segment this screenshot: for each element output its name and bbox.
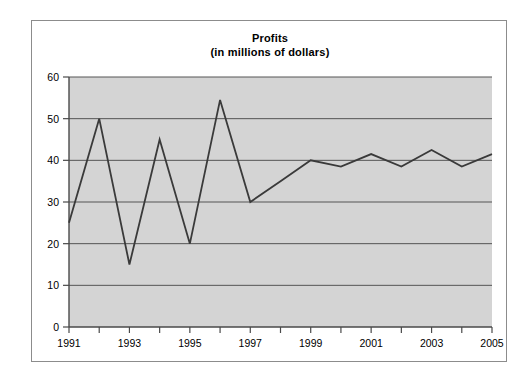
chart-frame: Profits (in millions of dollars) 0102030… <box>31 20 507 362</box>
x-tick-label: 2003 <box>420 337 444 349</box>
x-tick-label: 1993 <box>118 337 142 349</box>
y-tick-label: 30 <box>47 196 59 208</box>
x-tick-label: 1991 <box>57 337 81 349</box>
y-tick-label: 40 <box>47 154 59 166</box>
x-tick-label: 2001 <box>359 337 383 349</box>
y-tick-label: 60 <box>47 71 59 83</box>
x-tick-label: 1997 <box>239 337 263 349</box>
x-tick-label: 2005 <box>480 337 504 349</box>
y-tick-label: 20 <box>47 238 59 250</box>
x-tick-label: 1999 <box>299 337 323 349</box>
y-tick-label: 50 <box>47 113 59 125</box>
x-tick-label: 1995 <box>178 337 202 349</box>
y-tick-label: 0 <box>53 321 59 333</box>
line-chart-plot: 0102030405060199119931995199719992001200… <box>32 21 508 363</box>
y-tick-label: 10 <box>47 279 59 291</box>
